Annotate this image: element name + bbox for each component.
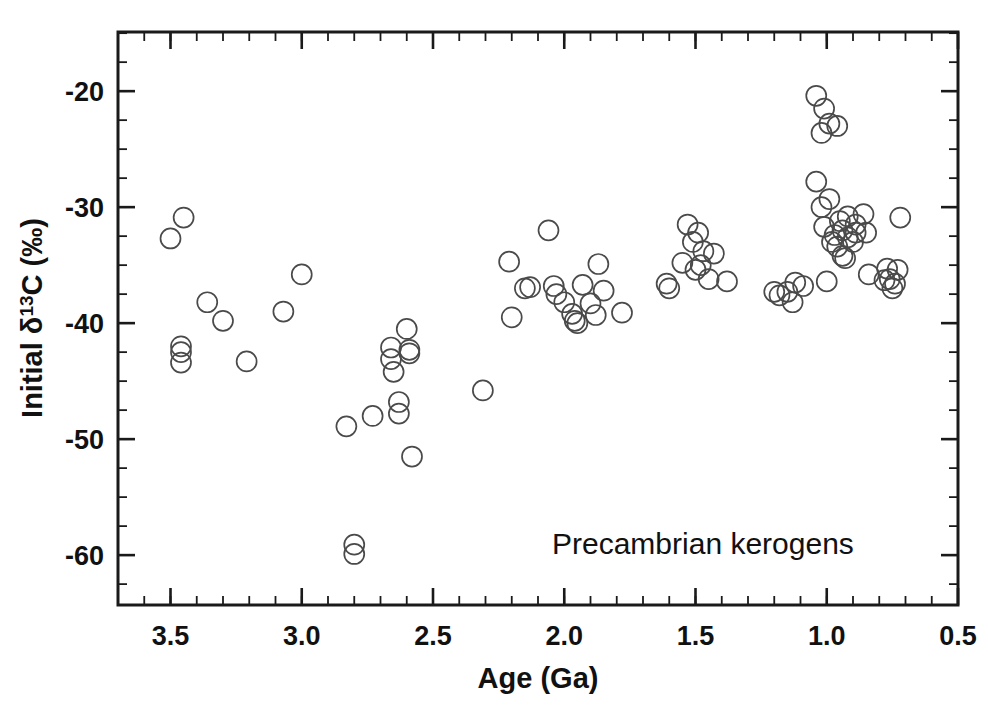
- data-point: [581, 293, 601, 313]
- x-axis-title: Age (Ga): [478, 662, 599, 694]
- data-point: [612, 303, 632, 323]
- data-point: [389, 392, 409, 412]
- data-point: [402, 447, 422, 467]
- chart-annotation: Precambrian kerogens: [552, 527, 854, 560]
- data-point: [812, 197, 832, 217]
- data-point: [586, 305, 606, 325]
- y-axis-title-pre: Initial: [16, 334, 48, 418]
- data-point: [381, 337, 401, 357]
- data-point: [819, 189, 839, 209]
- x-tick-label: 2.0: [545, 621, 583, 651]
- x-tick-label: 3.0: [283, 621, 321, 651]
- y-axis-title-superscript: 13: [16, 295, 37, 316]
- data-point: [554, 292, 574, 312]
- y-tick-label: -50: [65, 425, 104, 455]
- data-point: [588, 254, 608, 274]
- figure-root: 3.53.02.52.01.51.00.5 -20-30-40-50-60 Ag…: [0, 0, 988, 718]
- data-point: [389, 404, 409, 424]
- data-point: [473, 380, 493, 400]
- x-tick-label: 3.5: [152, 621, 190, 651]
- data-markers: [161, 86, 911, 564]
- x-tick-labels: 3.53.02.52.01.51.00.5: [152, 621, 977, 651]
- y-axis-title-post: C (‰): [16, 218, 48, 295]
- scatter-plot: 3.53.02.52.01.51.00.5 -20-30-40-50-60 Ag…: [0, 0, 988, 718]
- data-point: [806, 172, 826, 192]
- y-tick-labels: -20-30-40-50-60: [65, 77, 104, 571]
- y-tick-label: -60: [65, 541, 104, 571]
- x-tick-label: 1.0: [808, 621, 846, 651]
- x-tick-label: 0.5: [939, 621, 977, 651]
- data-point: [237, 351, 257, 371]
- data-point: [817, 271, 837, 291]
- data-point: [197, 292, 217, 312]
- data-point: [292, 264, 312, 284]
- data-point: [213, 311, 233, 331]
- y-tick-label: -30: [65, 193, 104, 223]
- y-tick-label: -40: [65, 309, 104, 339]
- data-point: [594, 281, 614, 301]
- data-point: [336, 416, 356, 436]
- data-point: [174, 208, 194, 228]
- data-point: [539, 220, 559, 240]
- x-tick-label: 2.5: [414, 621, 452, 651]
- data-point: [161, 228, 181, 248]
- data-point: [363, 406, 383, 426]
- data-point: [397, 319, 417, 339]
- y-tick-label: -20: [65, 77, 104, 107]
- data-point: [384, 362, 404, 382]
- data-point: [764, 282, 784, 302]
- data-point: [717, 271, 737, 291]
- data-point: [502, 307, 522, 327]
- data-point: [499, 252, 519, 272]
- data-point: [573, 275, 593, 295]
- data-point: [381, 349, 401, 369]
- x-tick-label: 1.5: [677, 621, 715, 651]
- y-axis-title: Initial δ13C (‰): [16, 218, 48, 418]
- data-point: [890, 208, 910, 228]
- data-point: [273, 302, 293, 322]
- y-axis-title-delta: δ: [16, 317, 48, 335]
